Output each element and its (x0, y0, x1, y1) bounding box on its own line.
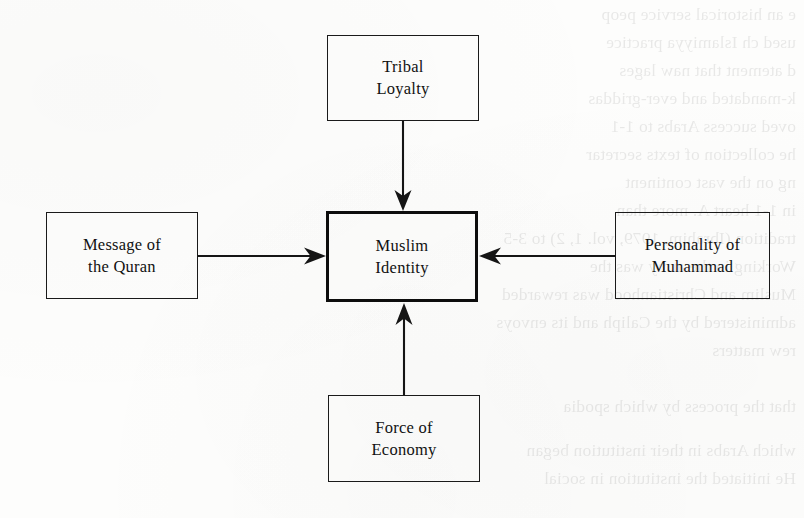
node-force-of-economy-line2: Economy (372, 439, 437, 461)
flow-diagram: Tribal Loyalty Message of the Quran Musl… (0, 0, 804, 518)
node-force-of-economy-line1: Force of (372, 417, 437, 439)
node-message-of-the-quran-line1: Message of (83, 234, 161, 256)
node-muslim-identity-line1: Muslim (375, 235, 428, 257)
node-tribal-loyalty-line2: Loyalty (376, 78, 429, 100)
edge-message-of-the-quran-to-muslim-identity (198, 248, 326, 265)
edge-force-of-economy-to-muslim-identity (396, 303, 413, 395)
edge-tribal-loyalty-to-muslim-identity (395, 121, 412, 211)
node-muslim-identity-line2: Identity (375, 257, 428, 279)
node-personality-of-muhammad-line1: Personality of (645, 234, 741, 256)
node-muslim-identity: Muslim Identity (326, 211, 478, 302)
edge-personality-of-muhammad-to-muslim-identity (479, 248, 615, 265)
node-message-of-the-quran-line2: the Quran (83, 256, 161, 278)
node-tribal-loyalty: Tribal Loyalty (327, 35, 479, 121)
scanned-page: e an historical service peop used ch Isl… (0, 0, 804, 518)
node-personality-of-muhammad-line2: Muhammad (645, 256, 741, 278)
node-tribal-loyalty-line1: Tribal (376, 56, 429, 78)
node-personality-of-muhammad: Personality of Muhammad (615, 212, 770, 299)
node-message-of-the-quran: Message of the Quran (46, 212, 198, 299)
node-force-of-economy: Force of Economy (328, 395, 480, 482)
